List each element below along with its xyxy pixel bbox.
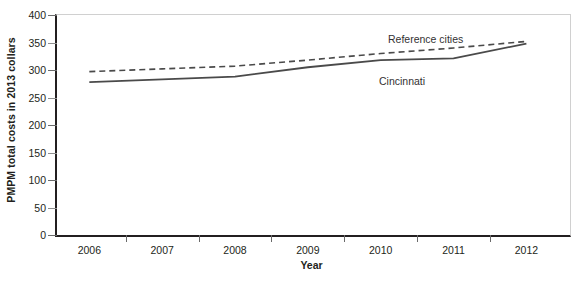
y-axis-title: PMPM total costs in 2013 collars xyxy=(0,0,22,240)
x-axis-tick-label: 2011 xyxy=(442,244,465,256)
y-axis-tick-label: 0 xyxy=(40,229,46,241)
x-axis-tick-label: 2008 xyxy=(223,244,246,256)
y-axis-tick xyxy=(48,43,57,44)
y-axis-tick xyxy=(48,180,57,181)
y-axis-tick-label: 300 xyxy=(28,64,46,76)
y-axis-tick xyxy=(48,208,57,209)
chart-figure: PMPM total costs in 2013 collars 0501001… xyxy=(0,0,579,281)
y-axis-tick-label: 200 xyxy=(28,119,46,131)
x-axis-title: Year xyxy=(55,259,568,271)
x-axis-tick-label: 2007 xyxy=(150,244,173,256)
x-axis-tick xyxy=(271,235,272,242)
y-axis-tick xyxy=(48,125,57,126)
y-axis-tick xyxy=(48,15,57,16)
annotation-cincinnati: Cincinnati xyxy=(379,75,425,87)
series-lines xyxy=(57,15,570,235)
y-axis-tick-label: 50 xyxy=(34,202,46,214)
x-axis-tick xyxy=(199,235,200,242)
y-axis-tick xyxy=(48,153,57,154)
annotation-reference-cities: Reference cities xyxy=(388,33,463,45)
y-axis-title-text: PMPM total costs in 2013 collars xyxy=(5,37,17,202)
x-axis-tick-label: 2009 xyxy=(296,244,319,256)
x-axis-tick xyxy=(126,235,127,242)
x-axis-tick-label: 2006 xyxy=(78,244,101,256)
x-axis-tick xyxy=(344,235,345,242)
y-axis-tick xyxy=(48,235,57,236)
y-axis-tick xyxy=(48,70,57,71)
plot-area: 050100150200250300350400 200620072008200… xyxy=(55,14,571,237)
y-axis-tick-label: 250 xyxy=(28,92,46,104)
x-axis-tick xyxy=(490,235,491,242)
y-axis-tick-label: 350 xyxy=(28,37,46,49)
y-axis-tick xyxy=(48,98,57,99)
y-axis-tick-label: 400 xyxy=(28,9,46,21)
x-axis-tick-label: 2010 xyxy=(369,244,392,256)
series-line-cincinnati xyxy=(89,44,526,83)
x-axis-tick xyxy=(417,235,418,242)
y-axis-tick-label: 150 xyxy=(28,147,46,159)
x-axis-tick-label: 2012 xyxy=(515,244,538,256)
y-axis-tick-label: 100 xyxy=(28,174,46,186)
